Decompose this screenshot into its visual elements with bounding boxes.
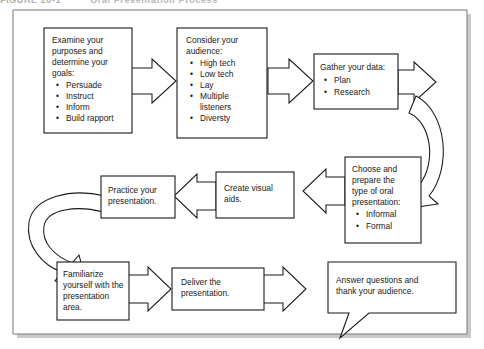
node-practice-text: Practice your presentation. <box>108 185 157 206</box>
node-visual-line-0: Create visual <box>224 183 273 193</box>
bullet-dot-icon: • <box>56 113 59 123</box>
node-data-line-0: Gather your data: <box>320 62 385 72</box>
node-practice-line-0: Practice your <box>108 185 157 195</box>
node-answer-text: Answer questions and thank your audience… <box>336 275 419 296</box>
node-data-bullet-0: Plan <box>334 75 351 85</box>
node-examine-line-2: determine your <box>52 57 108 67</box>
node-deliver-line-1: presentation. <box>181 288 229 298</box>
node-familiarize-line-0: Familiarize <box>63 269 104 279</box>
node-choose-line-3: presentation: <box>352 197 400 207</box>
node-audience-bullet-2: Lay <box>200 80 214 90</box>
figure-caption: FIGURE 20-1 Oral Presentation Process <box>0 0 484 5</box>
node-data-bullet-1: Research <box>334 87 370 97</box>
node-familiarize-line-2: presentation <box>63 291 109 301</box>
node-examine-bullet-2: Inform <box>66 102 90 112</box>
bullet-dot-icon: • <box>324 75 327 85</box>
node-audience-line-0: Consider your <box>186 35 238 45</box>
bullet-dot-icon: • <box>190 80 193 90</box>
node-choose-line-0: Choose and <box>352 164 398 174</box>
node-practice-line-1: presentation. <box>108 196 156 206</box>
bullet-dot-icon: • <box>56 91 59 101</box>
node-examine-bullet-3: Build rapport <box>66 113 114 123</box>
node-audience-bullet-1: Low tech <box>200 69 234 79</box>
node-choose-line-2: type of oral <box>352 186 394 196</box>
bullet-dot-icon: • <box>56 80 59 90</box>
figure-oral-presentation-process: FIGURE 20-1 Oral Presentation Process Ex <box>0 0 484 349</box>
figure-caption-number: FIGURE 20-1 <box>0 0 61 5</box>
bullet-dot-icon: • <box>190 58 193 68</box>
figure-caption-title: Oral Presentation Process <box>90 0 218 5</box>
node-visual-line-1: aids. <box>224 194 242 204</box>
node-audience-bullet-0: High tech <box>200 58 236 68</box>
node-audience-bullet-3: Multiple <box>200 91 229 101</box>
node-examine-bullet-1: Instruct <box>66 91 94 101</box>
node-examine-line-3: goals: <box>52 68 74 78</box>
node-examine-bullet-0: Persuade <box>66 80 102 90</box>
node-audience-line-1: audience: <box>186 46 222 56</box>
node-examine-line-0: Examine your <box>52 35 103 45</box>
bullet-dot-icon: • <box>190 91 193 101</box>
node-familiarize-line-3: area. <box>63 302 82 312</box>
bullet-dot-icon: • <box>190 113 193 123</box>
node-choose-bullet-0: Informal <box>366 209 396 219</box>
bullet-dot-icon: • <box>56 102 59 112</box>
node-answer-line-1: thank your audience. <box>336 286 414 296</box>
bullet-dot-icon: • <box>190 69 193 79</box>
node-choose-bullet-1: Formal <box>366 221 392 231</box>
node-audience-bullet-3-cont: listeners <box>200 102 231 112</box>
flowchart-canvas: Examine your purposes and determine your… <box>0 0 484 349</box>
node-familiarize-line-1: yourself with the <box>63 280 124 290</box>
bullet-dot-icon: • <box>356 221 359 231</box>
node-deliver-line-0: Deliver the <box>181 277 221 287</box>
node-answer-line-0: Answer questions and <box>336 275 419 285</box>
node-examine-line-1: purposes and <box>52 46 103 56</box>
node-choose-line-1: prepare the <box>352 175 395 185</box>
bullet-dot-icon: • <box>356 209 359 219</box>
node-audience-bullet-5: Diversty <box>200 113 231 123</box>
bullet-dot-icon: • <box>324 87 327 97</box>
